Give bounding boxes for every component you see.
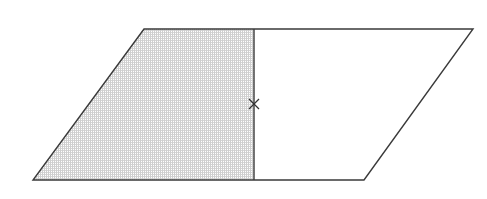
shaded-region: [33, 29, 254, 180]
diagram-canvas: [0, 0, 487, 199]
parallelogram-diagram: [0, 0, 487, 199]
